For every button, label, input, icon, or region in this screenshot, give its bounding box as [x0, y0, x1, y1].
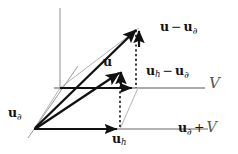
- label-ubnd-plus-v-sub: ∂: [187, 126, 192, 137]
- label-uh-minus-ubnd-sub1: h: [155, 69, 160, 79]
- label-uh-minus-ubnd-u1: u: [146, 63, 155, 78]
- label-u-minus-ubnd-u2: u: [184, 19, 193, 34]
- label-uh-minus-ubnd-op: −: [163, 63, 173, 78]
- label-u-minus-ubnd-u1: u: [160, 19, 169, 34]
- label-v-space-text: V: [209, 74, 220, 92]
- vector-arrows: [34, 30, 139, 129]
- label-uh-u: u: [112, 131, 121, 146]
- label-ubnd-sub: ∂: [17, 111, 22, 122]
- label-u-minus-ubnd-sub: ∂: [193, 25, 198, 36]
- label-uh-sub: h: [121, 137, 126, 147]
- label-u: u: [103, 56, 112, 69]
- label-u-minus-ubnd: u−u∂: [160, 21, 197, 35]
- label-u-text: u: [103, 54, 112, 69]
- label-uh-minus-ubnd-u2: u: [175, 63, 184, 78]
- label-ubnd-u: u: [8, 105, 17, 120]
- arrow-u: [35, 73, 119, 129]
- label-ubnd-plus-v-space: V: [206, 119, 216, 135]
- label-uh-minus-ubnd: uh−u∂: [146, 65, 189, 79]
- label-ubnd-plus-v: u∂+V: [178, 120, 217, 136]
- guide-uh-to-uhmub: [120, 88, 138, 129]
- label-uh-minus-ubnd-sub2: ∂: [184, 69, 189, 80]
- label-u-minus-ubnd-op: −: [171, 19, 181, 34]
- label-ubnd: u∂: [8, 107, 22, 121]
- label-uh: uh: [112, 133, 127, 147]
- label-v-space: V: [209, 76, 220, 91]
- dotted-projection-lines: [120, 30, 136, 129]
- figure-canvas: u−u∂ u uh−u∂ u∂ uh V u∂+V: [0, 0, 238, 154]
- label-ubnd-plus-v-op: +: [194, 120, 204, 135]
- label-ubnd-plus-v-u: u: [178, 120, 187, 135]
